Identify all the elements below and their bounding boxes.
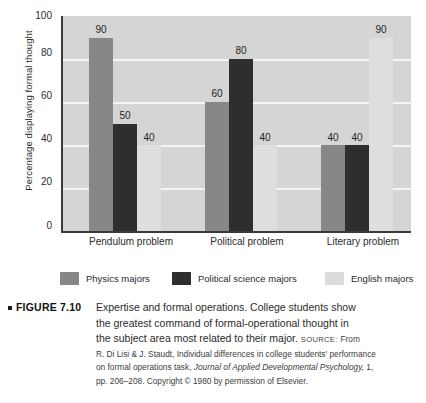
caption-body: Expertise and formal operations. College…	[96, 300, 414, 388]
plot-area: 90 50 40 60 80 40 40 40 90	[63, 16, 411, 231]
y-tick-label-80: 80	[22, 47, 52, 59]
y-tick-label-60: 60	[22, 90, 52, 102]
figure-chart-block: Percentage displaying formal thought 100…	[0, 0, 426, 300]
legend-swatch-english-icon	[325, 272, 344, 285]
bar-polisci-political[interactable]	[229, 59, 253, 231]
x-axis-line	[61, 231, 411, 233]
bar-value-physics-pendulum: 90	[83, 24, 119, 35]
caption-line-3-tail: From	[340, 334, 359, 344]
y-tick-label-0: 0	[22, 220, 52, 232]
bar-value-english-literary: 90	[363, 24, 399, 35]
x-label-pendulum: Pendulum problem	[66, 236, 196, 247]
bar-physics-pendulum[interactable]	[89, 38, 113, 232]
y-tick-label-40: 40	[22, 133, 52, 145]
bar-physics-literary[interactable]	[321, 145, 345, 231]
source-line-3: pp. 206–208. Copyright © 1980 by permiss…	[96, 375, 414, 389]
source-line-2-prefix: on formal operations task,	[96, 362, 191, 372]
legend-label-english: English majors	[351, 273, 413, 284]
x-label-literary: Literary problem	[298, 236, 426, 247]
y-axis-line	[61, 16, 63, 232]
bar-english-literary[interactable]	[369, 38, 393, 232]
source-journal-title: Journal of Applied Developmental Psychol…	[194, 362, 364, 372]
legend-item-english[interactable]: English majors	[325, 270, 413, 286]
y-tick-label-20: 20	[22, 176, 52, 188]
bar-value-polisci-political: 80	[223, 45, 259, 56]
legend-label-political-science: Political science majors	[198, 273, 297, 284]
bar-group-literary: 40 40 90	[313, 16, 413, 231]
bar-physics-political[interactable]	[205, 102, 229, 231]
source-tag: SOURCE:	[301, 335, 338, 344]
caption-line-1: Expertise and formal operations. College…	[96, 300, 414, 316]
chart-legend: Physics majors Political science majors …	[0, 270, 426, 290]
legend-item-political-science[interactable]: Political science majors	[172, 270, 297, 286]
bar-value-polisci-pendulum: 50	[107, 110, 143, 121]
bar-value-english-political: 40	[247, 132, 283, 143]
y-axis-tick-labels: 100 80 60 40 20 0	[22, 10, 52, 238]
x-label-political: Political problem	[182, 236, 312, 247]
y-tick-label-100: 100	[22, 10, 52, 22]
caption-line-3: the subject area most related to their m…	[96, 331, 414, 348]
x-axis-category-labels: Pendulum problem Political problem Liter…	[63, 236, 411, 252]
source-line-2: on formal operations task, Journal of Ap…	[96, 361, 414, 375]
figure-caption: FIGURE 7.10 Expertise and formal operati…	[0, 300, 426, 403]
caption-line-2: the greatest command of formal-operation…	[96, 316, 414, 332]
bar-value-english-pendulum: 40	[131, 132, 167, 143]
square-bullet-icon	[8, 306, 12, 310]
source-line-1: R. Di Lisi & J. Staudt, Individual diffe…	[96, 348, 414, 362]
legend-label-physics: Physics majors	[86, 273, 150, 284]
bar-polisci-literary[interactable]	[345, 145, 369, 231]
caption-line-3-text: the subject area most related to their m…	[96, 332, 298, 344]
bar-english-pendulum[interactable]	[137, 145, 161, 231]
bar-english-political[interactable]	[253, 145, 277, 231]
bar-group-pendulum: 90 50 40	[81, 16, 181, 231]
legend-item-physics[interactable]: Physics majors	[60, 270, 150, 286]
source-line-2-suffix: 1,	[366, 362, 373, 372]
figure-number: FIGURE 7.10	[16, 301, 81, 313]
bar-group-political: 60 80 40	[197, 16, 297, 231]
legend-swatch-political-science-icon	[172, 272, 191, 285]
legend-swatch-physics-icon	[60, 272, 79, 285]
